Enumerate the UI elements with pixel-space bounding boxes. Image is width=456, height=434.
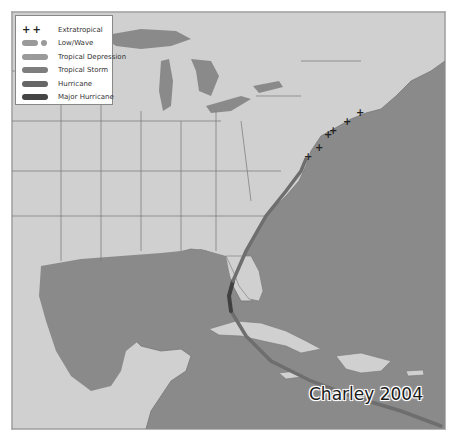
dashed-line-icon (22, 40, 48, 46)
map-title: Charley 2004 (309, 384, 423, 404)
legend-item-extratropical: ++ Extratropical (22, 23, 106, 37)
map-frame: +++ +++ ++ Extratropical Low/Wave Tropic… (11, 11, 446, 430)
legend-item-major-hurricane: Major Hurricane (22, 91, 106, 105)
line-swatch-icon (22, 54, 48, 60)
legend-item-tropical-storm: Tropical Storm (22, 64, 106, 78)
legend-item-hurricane: Hurricane (22, 77, 106, 91)
svg-text:+: + (356, 107, 364, 118)
svg-text:+: + (343, 116, 351, 127)
plus-icon: ++ (22, 27, 48, 33)
land-puerto-rico (406, 370, 424, 376)
line-swatch-icon (22, 67, 48, 73)
svg-text:+: + (315, 142, 323, 153)
legend-item-low-wave: Low/Wave (22, 37, 106, 51)
line-swatch-icon (22, 94, 48, 100)
svg-text:+: + (304, 151, 312, 162)
svg-text:+: + (329, 125, 337, 136)
line-swatch-icon (22, 81, 48, 87)
legend: ++ Extratropical Low/Wave Tropical Depre… (15, 15, 113, 105)
legend-item-tropical-depression: Tropical Depression (22, 50, 106, 64)
